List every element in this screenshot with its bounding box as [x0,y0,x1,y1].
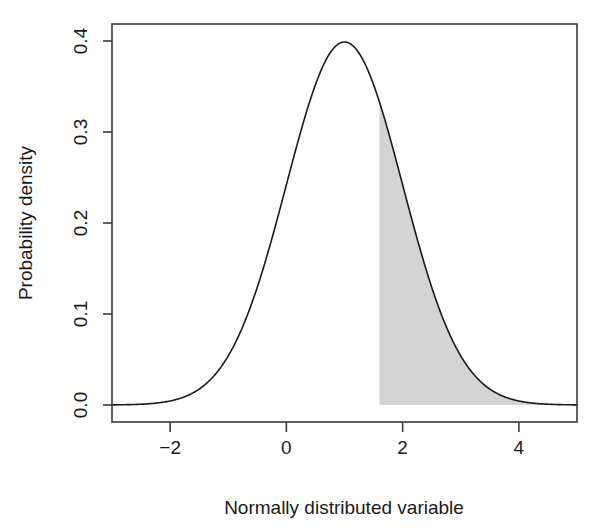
normal-distribution-plot: 0.00.10.20.30.4 −2024 Normally distribut… [0,0,595,531]
y-tick-label: 0.0 [70,392,91,418]
y-tick-label: 0.3 [70,119,91,145]
x-tick-label: 4 [514,437,525,458]
y-axis-title: Probability density [15,145,36,300]
y-tick-label: 0.2 [70,210,91,236]
x-axis-title: Normally distributed variable [224,497,464,518]
chart-figure: 0.00.10.20.30.4 −2024 Normally distribut… [0,0,595,531]
x-tick-label: 2 [397,437,408,458]
y-tick-label: 0.4 [70,27,91,54]
x-tick-label: −2 [159,437,181,458]
x-tick-label: 0 [281,437,292,458]
plot-background [0,0,595,531]
y-tick-label: 0.1 [70,301,91,327]
